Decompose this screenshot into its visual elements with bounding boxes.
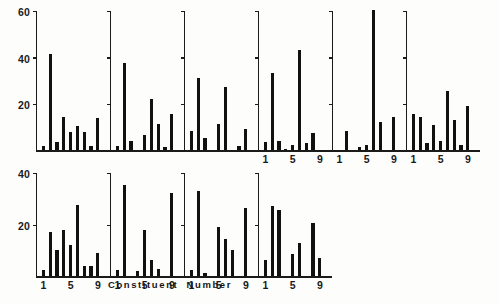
bar [150, 99, 153, 150]
bar [62, 117, 65, 151]
bar [62, 230, 65, 277]
bar [311, 223, 314, 276]
bar [116, 146, 119, 151]
y-axis-line [110, 12, 111, 152]
y-axis-line [110, 174, 111, 278]
bar [49, 54, 52, 151]
y-axis-tick [107, 57, 111, 58]
bar [459, 145, 462, 151]
x-axis-tick-label: 5 [287, 153, 299, 165]
y-axis-tick [181, 173, 185, 174]
y-axis-tick [33, 11, 37, 12]
y-axis-tick [329, 104, 333, 105]
y-axis-tick [255, 11, 259, 12]
bar [412, 114, 415, 150]
bar [55, 250, 58, 276]
bar [42, 270, 45, 277]
bar [277, 141, 280, 150]
bar [76, 126, 79, 151]
bar [379, 122, 382, 150]
bar [190, 131, 193, 151]
y-axis-tick [403, 104, 407, 105]
y-axis-tick [107, 173, 111, 174]
y-axis-tick-label: 20 [8, 220, 30, 232]
x-axis-line [110, 150, 184, 152]
bar [157, 269, 160, 277]
bar [453, 120, 456, 150]
bar [163, 147, 166, 151]
bar [264, 142, 267, 150]
chart-panel [110, 174, 184, 278]
y-axis-tick [181, 11, 185, 12]
y-axis-line [258, 174, 259, 278]
y-axis-tick [33, 57, 37, 58]
bar [49, 232, 52, 276]
bar [96, 253, 99, 276]
x-axis-tick-label: 1 [333, 153, 345, 165]
bar [318, 258, 321, 276]
bar [358, 147, 361, 151]
y-axis-tick [33, 104, 37, 105]
chart-panel [184, 174, 258, 278]
y-axis-line [332, 12, 333, 152]
y-axis-tick [33, 173, 37, 174]
x-axis-line [184, 276, 258, 278]
y-axis-tick [255, 104, 259, 105]
bar [89, 146, 92, 151]
chart-panel [36, 12, 110, 152]
bar [83, 132, 86, 151]
bar [69, 132, 72, 151]
chart-row-bottom: 2040159159159159 [0, 168, 499, 288]
y-axis-line [36, 12, 37, 152]
bar [217, 124, 220, 151]
bar [224, 87, 227, 150]
chart-panel [184, 12, 258, 152]
chart-panel [258, 174, 332, 278]
x-axis-line [184, 150, 258, 152]
bar [298, 243, 301, 277]
y-axis-line [184, 12, 185, 152]
x-axis-tick-label: 9 [314, 153, 326, 165]
x-axis-line [258, 276, 332, 278]
bar [69, 245, 72, 276]
y-axis-tick-label: 40 [8, 168, 30, 180]
bar [203, 138, 206, 151]
bar [170, 193, 173, 276]
y-axis-line [36, 174, 37, 278]
bar-chart-figure: 204060159159159 2040159159159159 Constit… [0, 0, 499, 304]
y-axis-tick [107, 11, 111, 12]
bar [96, 118, 99, 151]
bar [203, 273, 206, 277]
bar [190, 270, 193, 277]
x-axis-tick-label: 9 [462, 153, 474, 165]
bar [123, 185, 126, 276]
bar [116, 270, 119, 277]
bar [237, 146, 240, 151]
chart-panel [406, 12, 480, 152]
y-axis-tick [107, 225, 111, 226]
x-axis-line [36, 150, 110, 152]
bar [291, 254, 294, 276]
y-axis-line [258, 12, 259, 152]
bar [55, 142, 58, 150]
y-axis-tick-label: 60 [8, 6, 30, 18]
bar [129, 141, 132, 150]
chart-panel [110, 12, 184, 152]
x-axis-tick-label: 5 [435, 153, 447, 165]
chart-panel [258, 12, 332, 152]
bar [231, 250, 234, 276]
y-axis-tick [107, 104, 111, 105]
bar [432, 125, 435, 151]
x-axis-line [258, 150, 332, 152]
bar [372, 10, 375, 150]
x-axis-line [406, 150, 480, 152]
y-axis-tick [255, 225, 259, 226]
chart-panel [332, 12, 406, 152]
y-axis-tick [33, 225, 37, 226]
bar [42, 146, 45, 151]
bar [143, 230, 146, 277]
y-axis-line [406, 12, 407, 152]
y-axis-tick [181, 104, 185, 105]
x-axis-tick-label: 9 [388, 153, 400, 165]
x-axis-tick-label: 5 [361, 153, 373, 165]
